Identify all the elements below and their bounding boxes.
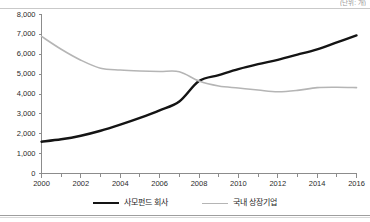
x-axis-tick-label: 2010	[218, 180, 258, 188]
y-axis-tick-label: 7,000	[0, 30, 36, 38]
legend-line-swatch-icon	[93, 202, 119, 204]
legend-item[interactable]: 사모펀드 회사	[93, 198, 168, 208]
legend-item[interactable]: 국내 상장기업	[202, 198, 277, 208]
series-group	[42, 35, 357, 141]
y-axis-tick-label: 1,000	[0, 150, 36, 158]
y-axis-tick-label: 2,000	[0, 130, 36, 138]
x-axis-tick-label: 2000	[22, 180, 62, 188]
bottom-divider-secondary	[0, 217, 370, 218]
series-line-2	[42, 36, 357, 91]
x-axis-tick-label: 2004	[100, 180, 140, 188]
y-axis-tick-label: 4,000	[0, 90, 36, 98]
legend-item-label: 사모펀드 회사	[124, 198, 168, 208]
y-axis-tick-label: 3,000	[0, 110, 36, 118]
x-axis-tick-label: 2016	[337, 180, 370, 188]
legend-item-label: 국내 상장기업	[233, 198, 277, 208]
y-axis-tick-label: 0	[0, 170, 36, 178]
x-axis-tick-label: 2012	[258, 180, 298, 188]
x-axis-tick-label: 2006	[140, 180, 180, 188]
y-axis-tick-label: 6,000	[0, 50, 36, 58]
chart-plot-area	[0, 0, 370, 222]
chart-figure: (단위: 개) 01,0002,0003,0004,0005,0006,0007…	[0, 0, 370, 222]
x-axis-tick-label: 2014	[297, 180, 337, 188]
legend-line-swatch-icon	[202, 203, 228, 204]
x-axis-tick-label: 2002	[61, 180, 101, 188]
axes-group	[39, 15, 357, 178]
y-axis-tick-label: 5,000	[0, 70, 36, 78]
chart-legend: 사모펀드 회사국내 상장기업	[0, 195, 370, 211]
y-axis-tick-label: 8,000	[0, 11, 36, 19]
x-axis-tick-label: 2008	[179, 180, 219, 188]
bottom-divider	[0, 215, 370, 216]
